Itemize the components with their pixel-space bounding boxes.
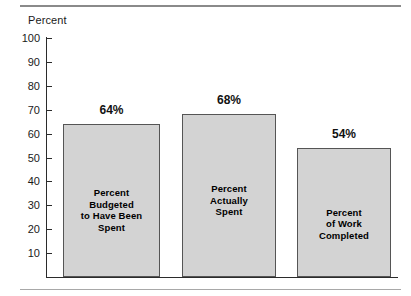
- bar-category-label-line: Percent: [183, 183, 275, 195]
- bar-category-label-line: Spent: [183, 206, 275, 218]
- y-axis-tick: [46, 205, 52, 206]
- bar[interactable]: PercentBudgetedto Have BeenSpent: [63, 124, 160, 277]
- bar[interactable]: PercentActuallySpent: [182, 114, 276, 277]
- y-axis-tick: [46, 86, 52, 87]
- bar-category-label: PercentActuallySpent: [183, 183, 275, 218]
- y-axis-tick-label: 70: [8, 105, 40, 116]
- bar-category-label-line: Spent: [64, 222, 159, 234]
- bar-category-label: PercentBudgetedto Have BeenSpent: [64, 187, 159, 233]
- bottom-divider-rule: [20, 289, 401, 290]
- bar-category-label-line: Completed: [298, 230, 390, 242]
- y-axis-tick: [46, 253, 52, 254]
- bar-category-label-line: Budgeted: [64, 199, 159, 211]
- y-axis-tick-label: 50: [8, 153, 40, 164]
- bar[interactable]: Percentof WorkCompleted: [297, 148, 391, 277]
- top-divider-rule: [20, 5, 401, 7]
- y-axis-tick: [46, 229, 52, 230]
- bar-category-label-line: Actually: [183, 195, 275, 207]
- y-axis-tick-label: 80: [8, 81, 40, 92]
- y-axis-tick-label: 40: [8, 176, 40, 187]
- bar-value-label: 54%: [297, 128, 391, 140]
- y-axis-tick-label: 90: [8, 57, 40, 68]
- y-axis-tick-label: 100: [8, 33, 40, 44]
- y-axis-tick: [46, 110, 52, 111]
- bar-category-label-line: Percent: [298, 207, 390, 219]
- bar-category-label: Percentof WorkCompleted: [298, 207, 390, 242]
- y-axis-tick: [46, 134, 52, 135]
- bar-category-label-line: to Have Been: [64, 210, 159, 222]
- y-axis-tick: [46, 62, 52, 63]
- y-axis-tick-label: 10: [8, 248, 40, 259]
- bar-chart-figure: Percent 100908070605040302010 PercentBud…: [0, 0, 411, 296]
- bar-value-label: 68%: [182, 94, 276, 106]
- y-axis-tick-label: 20: [8, 224, 40, 235]
- y-axis-tick: [46, 181, 52, 182]
- y-axis-title: Percent: [28, 14, 67, 26]
- y-axis-tick: [46, 158, 52, 159]
- x-axis-baseline: [46, 277, 398, 278]
- y-axis-tick-label: 60: [8, 129, 40, 140]
- y-axis-tick-label: 30: [8, 200, 40, 211]
- bar-category-label-line: of Work: [298, 218, 390, 230]
- bar-value-label: 64%: [63, 104, 160, 116]
- bar-category-label-line: Percent: [64, 187, 159, 199]
- y-axis-tick: [46, 38, 52, 39]
